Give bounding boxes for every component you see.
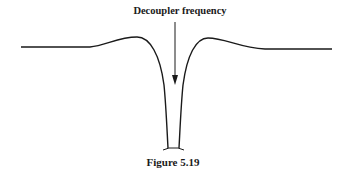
spectrum-diagram xyxy=(0,0,346,173)
decoupler-frequency-label: Decoupler frequency xyxy=(130,5,230,16)
figure-caption: Figure 5.19 xyxy=(123,156,223,168)
spectrum-curve-left xyxy=(21,37,168,148)
spectrum-curve-right xyxy=(179,38,332,148)
decoupler-arrow-head-icon xyxy=(172,75,178,85)
dip-base-marks xyxy=(163,148,184,150)
